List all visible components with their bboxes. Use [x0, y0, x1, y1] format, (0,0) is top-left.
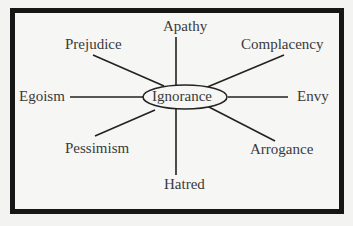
- node-prejudice: Prejudice: [65, 37, 122, 52]
- node-hatred: Hatred: [164, 177, 205, 192]
- spoke-line-pessimism: [95, 110, 155, 136]
- node-pessimism: Pessimism: [65, 141, 129, 156]
- spoke-line-prejudice: [93, 55, 164, 86]
- node-apathy: Apathy: [163, 19, 207, 34]
- node-egoism: Egoism: [19, 89, 65, 104]
- node-envy: Envy: [297, 89, 329, 104]
- node-complacency: Complacency: [241, 37, 323, 52]
- center-node-label: Ignorance: [152, 89, 212, 104]
- node-arrogance: Arrogance: [250, 142, 313, 157]
- spoke-line-arrogance: [207, 106, 275, 141]
- spoke-line-complacency: [205, 55, 284, 88]
